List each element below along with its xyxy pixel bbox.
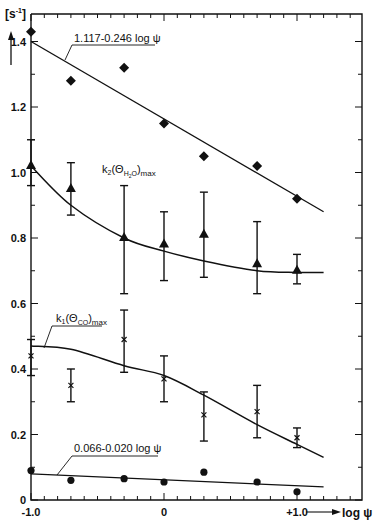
svg-text:+1.0: +1.0 (286, 506, 308, 518)
svg-text:0.066-0.020 log ψ: 0.066-0.020 log ψ (74, 442, 162, 454)
svg-text:1.0: 1.0 (11, 167, 26, 179)
svg-text:k1(ΘCO)max: k1(ΘCO)max (56, 312, 107, 327)
svg-text:0.4: 0.4 (11, 363, 27, 375)
svg-text:1.2: 1.2 (11, 101, 26, 113)
annotation-top-fit: 1.117-0.246 log ψ (65, 32, 161, 60)
annotation-k1-label: k1(ΘCO)max (44, 312, 107, 348)
svg-text:0: 0 (161, 506, 167, 518)
annotation-bottom-fit: 0.066-0.020 log ψ (57, 442, 162, 475)
x-axis-label: log ψ (306, 506, 372, 520)
annotation-k2-label: k2(ΘH2O)max (102, 163, 156, 179)
svg-text:-1.0: -1.0 (22, 506, 41, 518)
svg-text:0.2: 0.2 (11, 429, 26, 441)
x-axis-arrow-icon (332, 509, 341, 515)
y-unit-label: [s-1] (5, 7, 26, 21)
svg-text:log ψ: log ψ (342, 506, 372, 520)
axis-ticks (31, 14, 362, 500)
error-bars (27, 140, 301, 448)
plot-frame (31, 14, 362, 500)
svg-text:0.8: 0.8 (11, 232, 26, 244)
fit-lines (31, 42, 324, 487)
svg-text:0: 0 (20, 494, 26, 506)
svg-text:0.6: 0.6 (11, 298, 26, 310)
chart-canvas: 00.20.40.60.81.01.21.4-1.00+1.0 [s-1] 1.… (0, 0, 378, 526)
svg-text:1.4: 1.4 (11, 36, 27, 48)
svg-text:1.117-0.246 log ψ: 1.117-0.246 log ψ (74, 32, 161, 44)
